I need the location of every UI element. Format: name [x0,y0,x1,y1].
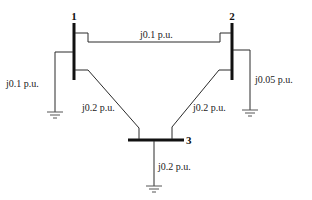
bus-2-label: 2 [229,10,235,22]
ground-icon [47,112,63,118]
shunt-bus-2 [233,50,250,110]
shunt-bus-1 [55,52,73,112]
bus-1-label: 1 [71,10,77,22]
ground-icon [146,186,162,192]
shunt-bus-1-impedance-label: j0.1 p.u. [5,78,39,89]
line-1-3-impedance-label: j0.2 p.u. [81,102,115,113]
line-2-3-impedance-label: j0.2 p.u. [192,102,226,113]
shunt-bus-2-impedance-label: j0.05 p.u. [254,74,293,85]
bus-3-label: 3 [186,134,192,146]
power-system-diagram: 1 2 3 j0.1 p.u. j0.2 p.u. j0.2 p.u. j0.1… [0,0,312,200]
line-1-2-impedance-label: j0.1 p.u. [139,29,173,40]
shunt-bus-3-impedance-label: j0.2 p.u. [157,161,191,172]
ground-icon [242,110,258,116]
